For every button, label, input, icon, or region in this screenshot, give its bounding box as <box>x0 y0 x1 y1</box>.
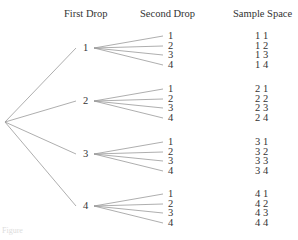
first-drop-node-2: 2 <box>83 96 88 106</box>
header-first-drop: First Drop <box>64 8 107 19</box>
figure-caption: Figure <box>2 226 23 235</box>
tree-branches <box>0 0 298 240</box>
first-drop-node-3: 3 <box>83 149 88 159</box>
second-drop-node: 4 <box>168 113 173 123</box>
sample-space-outcome: 1 4 <box>255 60 268 70</box>
header-second-drop: Second Drop <box>140 8 195 19</box>
first-drop-node-4: 4 <box>83 201 88 211</box>
second-drop-node: 4 <box>168 60 173 70</box>
header-sample-space: Sample Space <box>233 8 292 19</box>
second-drop-node: 4 <box>168 166 173 176</box>
sample-space-outcome: 4 4 <box>255 218 268 228</box>
second-drop-node: 4 <box>168 218 173 228</box>
sample-space-outcome: 3 4 <box>255 166 268 176</box>
sample-space-outcome: 2 4 <box>255 113 268 123</box>
first-drop-node-1: 1 <box>83 43 88 53</box>
